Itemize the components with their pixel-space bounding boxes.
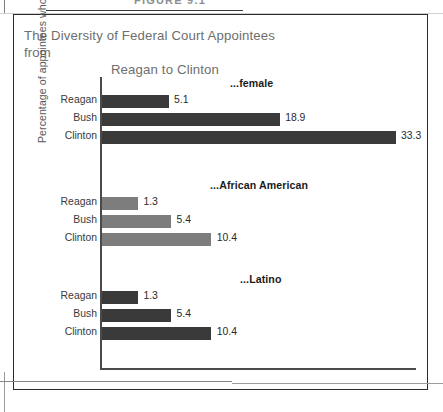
bar-value-label: 1.3 [143,196,157,207]
bar-category-label: Clinton [65,130,97,141]
bar [102,291,138,304]
bar-category-label: Bush [73,308,97,319]
bar-category-label: Clinton [65,232,97,243]
bar [102,233,212,246]
bar [102,113,280,126]
chart-title-line-1: The Diversity of Federal Court Appointee… [22,27,302,61]
bar [102,131,396,144]
y-axis-title: Percentage of appointees who are... [36,0,48,143]
bar-group-header: ...female [230,77,273,89]
bar-value-label: 5.1 [174,94,188,105]
bar [102,309,171,322]
page-margin-rule-top [4,0,5,14]
figure-caption-label: FIGURE 9.1 [110,0,230,6]
bar [102,215,171,228]
bar-category-label: Bush [73,214,97,225]
bar-value-label: 18.9 [285,112,305,123]
bar [102,197,138,210]
bar-category-label: Clinton [65,326,97,337]
bar-value-label: 1.3 [143,290,157,301]
x-axis-line [100,368,416,370]
page-margin-rule-bottom [4,372,5,412]
bar-category-label: Reagan [61,196,97,207]
bar [102,327,212,340]
chart-title-line-2: Reagan to Clinton [22,61,302,78]
bar-group-header: ...African American [210,179,308,191]
plot-area: ...femaleReagan5.1Bush18.9Clinton33.3...… [100,77,416,381]
figure-caption-rule [46,10,243,11]
bar-value-label: 33.3 [401,130,421,141]
bar-value-label: 5.4 [176,214,190,225]
page-bottom-rule-right [232,383,443,384]
chart-title: The Diversity of Federal Court Appointee… [22,27,302,78]
figure-frame: The Diversity of Federal Court Appointee… [13,14,428,390]
bar-category-label: Bush [73,112,97,123]
bar [102,95,169,108]
bar-value-label: 5.4 [176,308,190,319]
page-bottom-rule-left [0,381,232,382]
bar-value-label: 10.4 [217,232,237,243]
bar-category-label: Reagan [61,290,97,301]
bar-value-label: 10.4 [217,326,237,337]
bar-group-header: ...Latino [240,273,282,285]
bar-category-label: Reagan [61,94,97,105]
